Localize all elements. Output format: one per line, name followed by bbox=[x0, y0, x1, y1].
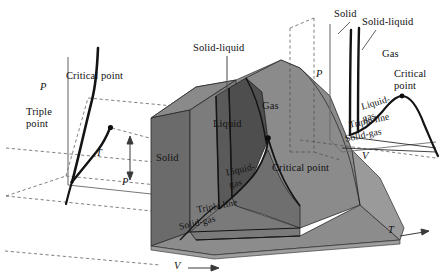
right-critical-point-label-line1: Critical bbox=[394, 68, 426, 79]
left-chart-t-axis-label: T bbox=[96, 147, 102, 158]
center-gas-label: Gas bbox=[262, 100, 279, 111]
left-critical-point-dot bbox=[108, 125, 113, 130]
pvt-surface-figure: P T Critical point Triple point Solid-li… bbox=[0, 0, 442, 279]
center-solid-liquid-label: Solid-liquid bbox=[193, 42, 244, 53]
right-critical-point-label-line2: point bbox=[394, 80, 416, 91]
right-solid-liquid-label: Solid-liquid bbox=[362, 16, 413, 27]
center-solid-label: Solid bbox=[156, 152, 179, 163]
center-liquid-label: Liquid bbox=[213, 118, 242, 129]
center-p-axis-label: P bbox=[122, 176, 129, 187]
right-critical-point-dot bbox=[400, 94, 405, 99]
center-critical-point-label: Critical point bbox=[272, 162, 329, 173]
center-v-axis-label: V bbox=[174, 260, 181, 271]
center-v-axis-arrow bbox=[188, 265, 219, 271]
right-gas-label: Gas bbox=[382, 48, 399, 59]
left-critical-point-label: Critical point bbox=[66, 70, 123, 81]
left-triple-point-dot bbox=[70, 180, 73, 183]
right-p-axis-label: P bbox=[316, 68, 323, 79]
center-p-axis-arrow bbox=[127, 136, 133, 180]
left-triple-point-label-line1: Triple bbox=[26, 106, 52, 117]
right-solid-label: Solid bbox=[334, 8, 357, 19]
right-v-axis-label: V bbox=[362, 150, 369, 161]
center-t-axis-label: T bbox=[388, 224, 394, 235]
left-chart-p-axis-label: P bbox=[40, 81, 47, 92]
left-triple-point-label-line2: point bbox=[26, 118, 48, 129]
center-critical-point-dot bbox=[265, 135, 271, 141]
center-t-axis-arrow bbox=[400, 229, 429, 236]
